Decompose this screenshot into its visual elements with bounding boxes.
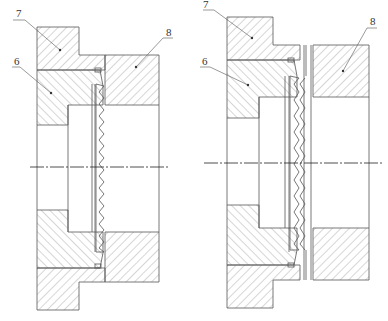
part-8-top-r <box>313 45 369 97</box>
part-6-bottom <box>37 210 103 268</box>
left-view <box>37 27 159 310</box>
seal-teeth-left <box>96 84 104 252</box>
part-7-bottom-r <box>227 265 300 308</box>
part-7-top-r <box>227 17 300 60</box>
label-7-left: 7 <box>16 7 22 19</box>
part-6-bottom-r <box>227 205 297 265</box>
label-8-right: 8 <box>370 15 376 27</box>
part-8-bottom <box>105 232 159 282</box>
label-6-right: 6 <box>202 55 208 67</box>
label-6-left: 6 <box>14 55 20 67</box>
label-7-right: 7 <box>203 0 209 10</box>
part-8-top <box>105 55 159 105</box>
part-8-bottom-r <box>313 228 369 280</box>
right-view <box>227 17 369 308</box>
label-8-left: 8 <box>166 26 172 38</box>
part-6-top <box>37 70 103 125</box>
cross-section-drawing: 7 6 8 7 6 <box>0 0 388 321</box>
part-6-top-r <box>227 60 297 118</box>
part-7-top <box>37 27 105 70</box>
part-7-bottom <box>37 268 105 310</box>
